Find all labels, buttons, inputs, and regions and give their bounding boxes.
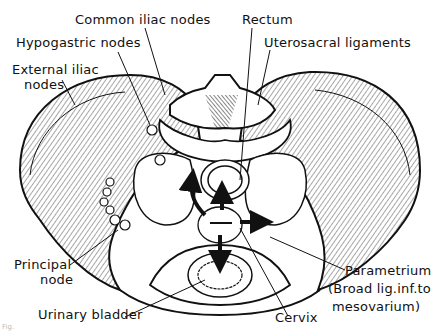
label-external-iliac-1: External iliac bbox=[12, 62, 99, 77]
figure-caption: Fig. bbox=[2, 323, 14, 331]
label-uterosacral-ligaments: Uterosacral ligaments bbox=[264, 35, 411, 50]
principal-node bbox=[120, 220, 130, 230]
rectum bbox=[201, 160, 249, 200]
label-urinary-bladder: Urinary bladder bbox=[38, 307, 143, 322]
label-principal-node-2: node bbox=[40, 272, 73, 287]
label-hypogastric-nodes: Hypogastric nodes bbox=[16, 35, 141, 50]
pelvis-diagram: Common iliac nodes Hypogastric nodes Ext… bbox=[0, 0, 440, 335]
label-common-iliac-nodes: Common iliac nodes bbox=[75, 12, 211, 27]
label-external-iliac-2: nodes bbox=[24, 77, 64, 92]
label-rectum: Rectum bbox=[242, 12, 293, 27]
label-parametrium-2: (Broad lig.inf.to bbox=[328, 281, 431, 296]
label-parametrium-3: mesovarium) bbox=[332, 299, 420, 314]
label-cervix: Cervix bbox=[275, 310, 318, 325]
label-parametrium-1: Parametrium bbox=[345, 263, 431, 278]
right-pelvic-space bbox=[245, 153, 306, 225]
left-pelvic-space bbox=[134, 153, 195, 225]
label-principal-node-1: Principal bbox=[14, 257, 71, 272]
